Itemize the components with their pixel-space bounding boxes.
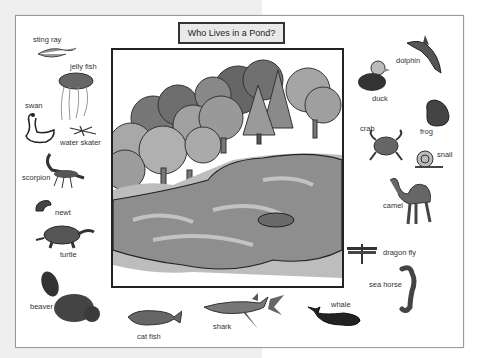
- label-frog: frog: [420, 127, 433, 136]
- sea-horse-icon: [396, 265, 420, 315]
- label-swan: swan: [25, 101, 43, 110]
- jelly-fish-icon: [56, 72, 96, 122]
- newt-icon: [33, 197, 55, 215]
- swan-icon: [21, 110, 57, 146]
- cat-fish-icon: [126, 307, 182, 329]
- label-shark: shark: [213, 322, 231, 331]
- dolphin-icon: [405, 35, 445, 79]
- water-skater-icon: [68, 124, 98, 138]
- label-snail: snail: [437, 150, 452, 159]
- label-newt: newt: [55, 208, 71, 217]
- label-jelly-fish: jelly fish: [70, 62, 97, 71]
- label-sting-ray: sting ray: [33, 35, 61, 44]
- label-dragon-fly: dragon fly: [383, 248, 416, 257]
- label-turtle: turtle: [60, 250, 77, 259]
- page-title: Who Lives in a Pond?: [178, 22, 285, 44]
- dragon-fly-icon: [345, 242, 379, 266]
- whale-icon: [306, 305, 362, 327]
- frog-icon: [421, 98, 451, 128]
- camel-icon: [386, 174, 436, 228]
- beaver-icon: [40, 270, 102, 332]
- label-cat-fish: cat fish: [137, 332, 161, 341]
- pond-scene: [111, 48, 344, 288]
- scorpion-icon: [44, 152, 88, 190]
- turtle-icon: [34, 222, 96, 250]
- crab-icon: [366, 128, 406, 162]
- sting-ray-icon: [36, 44, 78, 60]
- label-duck: duck: [372, 94, 388, 103]
- label-water-skater: water skater: [60, 138, 101, 147]
- label-scorpion: scorpion: [22, 173, 50, 182]
- duck-icon: [356, 60, 390, 92]
